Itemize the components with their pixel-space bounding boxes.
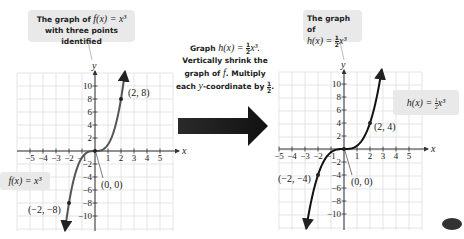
instr-l3-prefix: graph of: [184, 69, 222, 78]
x-tick-label: −2: [64, 153, 74, 163]
y-tick-label: 4: [337, 118, 342, 128]
y-tick-label: −4: [331, 170, 341, 180]
x-tick-label: −4: [287, 151, 297, 161]
y-tick-label: 10: [83, 81, 93, 91]
x-tick-label: 3: [381, 151, 386, 161]
point-label: (0, 0): [351, 176, 373, 188]
data-point: [67, 201, 71, 205]
y-tick-label: 6: [88, 107, 93, 117]
y-axis-label: y: [91, 60, 97, 71]
fraction-half-2: 12: [267, 81, 271, 94]
x-tick-label: 3: [132, 153, 137, 163]
x-tick-label: 4: [145, 153, 150, 163]
instr-l4-suffix: -coordinate by: [203, 82, 264, 91]
y-tick-label: 8: [88, 94, 93, 104]
right-callout-math: h(x) =: [307, 35, 335, 46]
y-tick-label: −6: [82, 185, 92, 195]
data-point: [368, 121, 372, 125]
instr-l3-suffix: . Multiply: [226, 69, 266, 78]
instr-l2: Vertically shrink the: [174, 55, 276, 67]
left-callout-prefix: The graph of: [37, 15, 94, 24]
left-function-label: f(x) = x³: [0, 172, 50, 190]
y-tick-label: −8: [82, 198, 92, 208]
y-tick-label: 8: [337, 92, 342, 102]
y-tick-label: 2: [337, 131, 342, 141]
point-label: (0, 0): [101, 179, 123, 191]
point-label: (−2, −4): [278, 173, 311, 185]
y-axis-label: y: [340, 59, 346, 70]
y-tick-label: 6: [337, 105, 342, 115]
x-tick-label: 1: [355, 151, 360, 161]
x-axis-label: x: [430, 143, 436, 154]
x-tick-label: −5: [274, 151, 284, 161]
point-label: (2, 4): [374, 121, 396, 133]
x-axis-label: x: [181, 145, 187, 156]
x-tick-label: 5: [158, 153, 163, 163]
left-callout-math: f(x) = x³: [93, 13, 126, 24]
right-function-label: h(x) = 12x³: [393, 90, 459, 115]
x-tick-label: 2: [368, 151, 373, 161]
right-callout-line1: The graph of: [307, 13, 358, 35]
x-tick-label: −5: [25, 153, 35, 163]
right-graph: xy−5−4−3−2−112345108642−2−4−6−8−10(2, 4)…: [274, 59, 436, 230]
y-tick-label: −8: [331, 196, 341, 206]
instr-l1-math: h(x) =: [218, 42, 246, 53]
x-tick-label: −3: [300, 151, 310, 161]
y-tick-label: −10: [327, 209, 342, 219]
x-tick-label: 2: [119, 153, 124, 163]
data-point: [342, 147, 346, 151]
right-callout-suffix: x³: [339, 35, 346, 46]
left-callout-line2: with three points identified: [32, 25, 131, 47]
x-tick-label: 1: [106, 153, 111, 163]
left-function-label-text: f(x) = x³: [8, 175, 41, 186]
x-tick-label: −3: [51, 153, 61, 163]
data-point: [316, 173, 320, 177]
instr-l1-suffix: x³.: [250, 42, 260, 53]
data-point: [119, 97, 123, 101]
point-label: (−2, −8): [28, 204, 61, 216]
left-callout: The graph of f(x) = x³ with three points…: [28, 10, 135, 42]
y-tick-label: −4: [82, 172, 92, 182]
x-tick-label: 4: [394, 151, 399, 161]
left-graph: xy−5−4−3−2−112345108642−2−4−6−8−10(2, 8)…: [17, 60, 187, 231]
y-tick-label: −2: [331, 157, 341, 167]
right-callout: The graph of h(x) = 12x³: [303, 10, 362, 42]
frac-den-2: 2: [267, 88, 271, 94]
right-function-label-suffix: x³: [438, 97, 445, 108]
instruction-text: Graph h(x) = 12x³. Vertically shrink the…: [174, 42, 276, 94]
y-tick-label: 4: [88, 120, 93, 130]
page-tab-icon: [442, 218, 462, 230]
instr-l4-prefix: each: [176, 82, 199, 91]
x-tick-label: −4: [38, 153, 48, 163]
instr-l1-prefix: Graph: [190, 44, 218, 53]
y-tick-label: −6: [331, 183, 341, 193]
data-point: [93, 149, 97, 153]
point-label: (2, 8): [128, 87, 150, 99]
x-tick-label: 5: [407, 151, 412, 161]
right-arrow-icon: [178, 106, 268, 146]
y-tick-label: −2: [82, 159, 92, 169]
right-function-label-math: h(x) =: [407, 97, 435, 108]
y-tick-label: 2: [88, 133, 93, 143]
y-tick-label: 10: [332, 79, 342, 89]
x-tick-label: −2: [313, 151, 323, 161]
y-tick-label: −10: [78, 211, 93, 221]
